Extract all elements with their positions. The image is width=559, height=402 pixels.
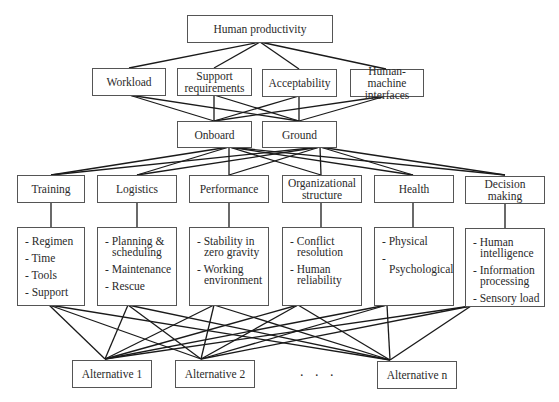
goal-label: Human productivity [214, 23, 307, 35]
detail-to-alternative-links [49, 305, 471, 360]
criterion-label: Human-machine interfaces [354, 65, 420, 101]
criterion-node-workload: Workload [92, 68, 166, 96]
detail-box-performance: - Stability in zero gravity - Working en… [189, 227, 269, 306]
location-to-factor-links [51, 147, 505, 175]
criterion-node-acceptability: Acceptability [262, 69, 337, 97]
alternative-label: Alternative 1 [82, 368, 142, 380]
factor-label: Organizational structure [286, 177, 358, 201]
detail-item: - Information processing [473, 265, 540, 287]
detail-item: - Psychological [382, 253, 449, 275]
detail-item: - Support [25, 287, 80, 298]
ellipsis: . . . [300, 364, 338, 380]
detail-item: - Working environment [197, 264, 264, 286]
alternative-node-1: Alternative 1 [72, 360, 152, 388]
location-node-onboard: Onboard [177, 121, 252, 148]
factor-node-performance: Performance [189, 175, 269, 203]
criterion-node-support-requirements: Support requirements [177, 68, 252, 96]
detail-item: - Human reliability [290, 264, 357, 286]
criterion-label: Acceptability [269, 77, 331, 89]
factor-node-training: Training [17, 175, 85, 203]
alternative-label: Alternative n [387, 369, 447, 381]
detail-item: - Rescue [105, 281, 172, 292]
factor-node-decision-making: Decision making [465, 176, 545, 204]
criterion-label: Workload [106, 76, 151, 88]
detail-item: - Planning & scheduling [105, 236, 172, 258]
goal-to-criteria-links [129, 42, 386, 69]
detail-item: - Sensory load [473, 293, 540, 304]
detail-item: - Physical [382, 236, 449, 247]
detail-box-organizational-structure: - Conflict resolution - Human reliabilit… [282, 227, 362, 306]
factor-label: Performance [200, 183, 259, 195]
detail-item: - Conflict resolution [290, 236, 357, 258]
alternative-label: Alternative 2 [185, 368, 245, 380]
factor-label: Logistics [116, 183, 158, 195]
detail-box-health: - Physical - Psychological [374, 227, 454, 306]
location-label: Onboard [194, 129, 234, 141]
alternative-node-2: Alternative 2 [175, 360, 255, 388]
detail-box-training: - Regimen - Time - Tools - Support [17, 227, 85, 306]
detail-item: - Human intelligence [473, 237, 540, 259]
detail-item: - Regimen [25, 236, 80, 247]
factor-label: Decision making [480, 178, 530, 202]
factor-node-health: Health [374, 175, 454, 203]
criterion-node-human-machine-interfaces: Human-machine interfaces [350, 69, 424, 97]
ahp-hierarchy-diagram: Human productivity Workload Support requ… [0, 0, 559, 402]
factor-node-organizational-structure: Organizational structure [282, 175, 362, 203]
detail-item: - Tools [25, 270, 80, 281]
detail-box-logistics: - Planning & scheduling - Maintenance - … [97, 227, 177, 306]
factor-label: Training [31, 183, 70, 195]
factor-node-logistics: Logistics [97, 175, 177, 203]
location-label: Ground [282, 129, 317, 141]
criterion-label: Support requirements [183, 70, 247, 94]
goal-node-human-productivity: Human productivity [187, 15, 333, 43]
alternative-node-n: Alternative n [377, 361, 457, 389]
criteria-to-location-links [129, 95, 386, 121]
detail-box-decision-making: - Human intelligence - Information proce… [465, 228, 545, 307]
factor-label: Health [399, 183, 430, 195]
detail-item: - Maintenance [105, 264, 172, 275]
detail-item: - Stability in zero gravity [197, 236, 264, 258]
factor-to-detail-links [51, 202, 505, 228]
location-node-ground: Ground [262, 121, 337, 148]
detail-item: - Time [25, 253, 80, 264]
